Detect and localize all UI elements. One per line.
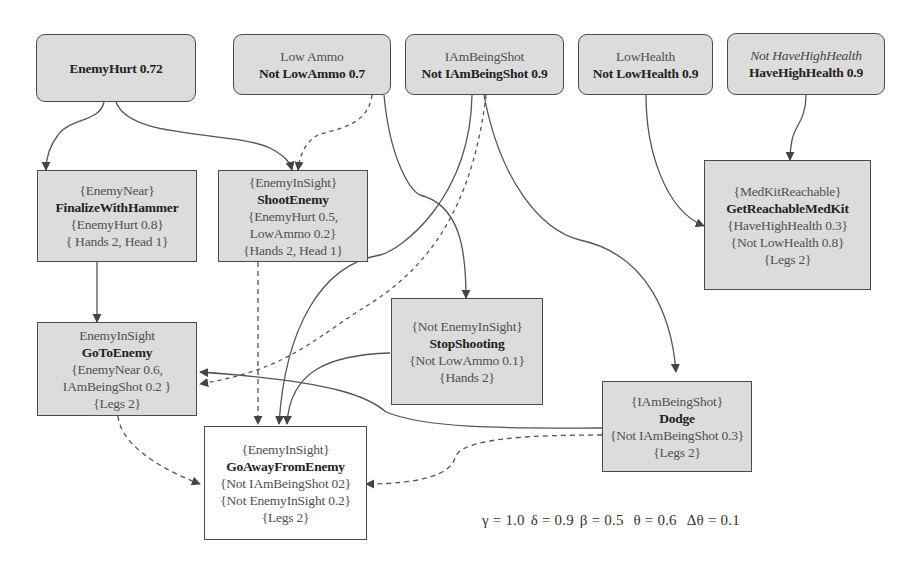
action-node-shoot-enemy: {EnemyInSight} ShootEnemy {EnemyHurt 0.5… <box>218 170 368 262</box>
param-theta: θ = 0.6 <box>634 512 677 528</box>
edge-gotoenemy-goaway <box>118 416 200 484</box>
node-label: EnemyHurt 0.72 <box>69 60 162 77</box>
state-node-enemy-hurt: EnemyHurt 0.72 <box>36 34 196 102</box>
node-title: Dodge <box>659 410 695 427</box>
node-effect: {HaveHighHealth 0.3} <box>727 217 848 234</box>
node-label: Not IAmBeingShot 0.9 <box>421 65 547 82</box>
node-label: Not LowHealth 0.9 <box>593 65 699 82</box>
node-title: GoAwayFromEnemy <box>226 458 345 475</box>
node-precondition: {Not EnemyInSight} <box>412 318 523 335</box>
diagram-canvas: EnemyHurt 0.72 Low Ammo Not LowAmmo 0.7 … <box>0 0 910 570</box>
node-resources: {Hands 2, Head 1} <box>243 242 343 259</box>
edge-enemyhurt-shootenemy <box>116 102 292 170</box>
node-effect: {Not LowHealth 0.8} <box>731 234 845 251</box>
node-resources: {Hands 2} <box>439 369 495 386</box>
edge-dodge-goaway <box>366 435 602 484</box>
state-node-low-ammo: Low Ammo Not LowAmmo 0.7 <box>233 34 391 95</box>
edge-enemyhurt-finalize <box>46 102 104 170</box>
param-delta-theta: Δθ = 0.1 <box>687 512 740 528</box>
node-label: HaveHighHealth 0.9 <box>749 64 863 81</box>
node-resources: {Legs 2} <box>93 395 141 412</box>
state-node-have-high-health: Not HaveHighHealth HaveHighHealth 0.9 <box>727 33 885 95</box>
node-precondition: {EnemyInSight} <box>249 174 337 191</box>
node-title: FinalizeWithHammer <box>56 199 179 216</box>
edge-stopshooting-goaway <box>287 353 390 424</box>
action-node-finalize-with-hammer: {EnemyNear} FinalizeWithHammer {EnemyHur… <box>37 170 197 262</box>
param-beta: β = 0.5 <box>580 512 624 528</box>
edge-lowammo-stopshooting <box>384 95 466 298</box>
action-node-go-to-enemy: EnemyInSight GoToEnemy {EnemyNear 0.6, I… <box>37 322 197 416</box>
node-effect: {EnemyHurt 0.8} <box>70 216 163 233</box>
node-effect: {Not LowAmmo 0.1} <box>409 352 525 369</box>
node-precondition: {IAmBeingShot} <box>631 393 723 410</box>
action-node-get-reachable-medkit: {MedKitReachable} GetReachableMedKit {Ha… <box>704 160 871 290</box>
node-effect: {EnemyHurt 0.5, <box>248 208 338 225</box>
node-label: Not LowAmmo 0.7 <box>259 65 365 82</box>
node-effect: {EnemyNear 0.6, <box>71 361 163 378</box>
param-gamma: γ = 1.0 <box>482 512 525 528</box>
node-precondition: {MedKitReachable} <box>734 183 842 200</box>
node-resources: { Hands 2, Head 1} <box>66 233 169 250</box>
node-resources: {Legs 2} <box>764 251 812 268</box>
param-delta: δ = 0.9 <box>531 512 574 528</box>
node-resources: {Legs 2} <box>653 444 701 461</box>
node-label: LowHealth <box>616 48 675 65</box>
node-label: IAmBeingShot <box>445 48 524 65</box>
action-node-dodge: {IAmBeingShot} Dodge {Not IAmBeingShot 0… <box>602 381 752 472</box>
action-node-go-away-from-enemy: {EnemyInSight} GoAwayFromEnemy {Not IAmB… <box>204 426 367 540</box>
parameter-legend: γ = 1.0 δ = 0.9 β = 0.5 θ = 0.6 Δθ = 0.1 <box>482 512 742 529</box>
node-title: GetReachableMedKit <box>726 200 848 217</box>
node-effect: {Not IAmBeingShot 0.3} <box>610 427 744 444</box>
node-precondition: EnemyInSight <box>79 327 155 344</box>
action-node-stop-shooting: {Not EnemyInSight} StopShooting {Not Low… <box>391 298 543 405</box>
state-node-i-am-being-shot: IAmBeingShot Not IAmBeingShot 0.9 <box>405 34 564 95</box>
state-node-low-health: LowHealth Not LowHealth 0.9 <box>578 34 713 95</box>
node-precondition: {EnemyNear} <box>79 182 154 199</box>
node-effect: IAmBeingShot 0.2 } <box>63 378 171 395</box>
node-label: Low Ammo <box>280 48 343 65</box>
node-resources: {Legs 2} <box>262 509 310 526</box>
edge-lowhealth-medkit <box>646 95 704 226</box>
node-effect: {Not IAmBeingShot 02} <box>220 475 351 492</box>
node-label: Not HaveHighHealth <box>750 47 862 64</box>
edge-lowammo-shootenemy <box>298 95 372 170</box>
node-title: ShootEnemy <box>257 191 329 208</box>
node-title: StopShooting <box>430 335 505 352</box>
node-precondition: {EnemyInSight} <box>241 441 329 458</box>
node-title: GoToEnemy <box>82 344 152 361</box>
node-effect: LowAmmo 0.2} <box>250 225 337 242</box>
node-effect: {Not EnemyInSight 0.2} <box>220 492 350 509</box>
edge-havehighhealth-medkit <box>790 95 806 160</box>
